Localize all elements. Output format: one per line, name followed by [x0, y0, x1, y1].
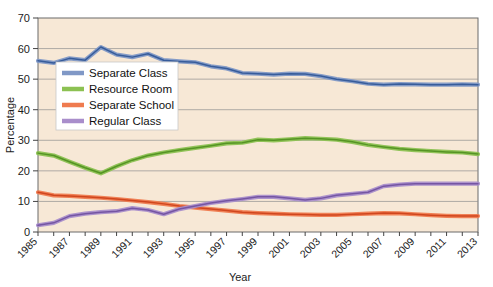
y-axis-title: Percentage [4, 97, 16, 153]
y-tick-label: 70 [18, 12, 30, 24]
y-tick-label: 50 [18, 73, 30, 85]
legend: Separate ClassResource RoomSeparate Scho… [56, 62, 178, 130]
y-tick-label: 20 [18, 165, 30, 177]
legend-label: Regular Class [89, 115, 161, 127]
x-axis-title: Year [229, 271, 252, 283]
y-tick-label: 10 [18, 195, 30, 207]
y-tick-label: 60 [18, 43, 30, 55]
y-tick-label: 30 [18, 134, 30, 146]
legend-label: Separate School [89, 99, 174, 111]
line-chart: 010203040506070 198519871989199119931995… [0, 0, 493, 287]
legend-label: Separate Class [89, 67, 168, 79]
y-tick-label: 40 [18, 104, 30, 116]
legend-label: Resource Room [89, 83, 172, 95]
